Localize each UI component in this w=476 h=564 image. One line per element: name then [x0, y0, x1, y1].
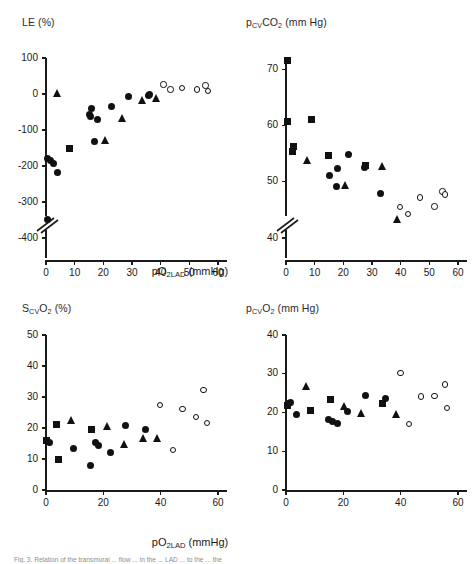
panel-pcvco2-y-tick	[282, 181, 286, 182]
panel-pcvco2-x-axis-line	[285, 260, 467, 262]
panel-scvo2-point-filled-circle	[95, 442, 102, 449]
panel-pcvo2-point-open-circle	[442, 381, 448, 387]
panel-pcvo2-y-tick-label: 30	[238, 367, 278, 378]
panel-scvo2-point-filled-triangle	[139, 434, 147, 442]
panel-le-x-tick	[74, 261, 75, 265]
panel-pcvco2-x-tick-label: 0	[271, 267, 301, 278]
panel-pcvco2-y-tick-label: 40	[238, 232, 278, 243]
panel-pcvo2-point-open-circle	[406, 421, 412, 427]
panel-pcvco2-y-tick	[282, 69, 286, 70]
panel-le-point-filled-circle	[108, 103, 115, 110]
panel-pcvco2-point-filled-triangle	[341, 181, 349, 189]
panel-pcvco2-point-open-circle	[442, 191, 448, 197]
panel-pcvo2: pCVO2 (mm Hg) 0102030400204060	[238, 290, 476, 564]
panel-le-x-tick-label: 10	[60, 267, 90, 278]
panel-scvo2-y-tick	[42, 427, 46, 428]
panel-pcvco2-x-tick-label: 50	[414, 267, 444, 278]
panel-pcvco2-point-filled-circle	[345, 151, 352, 158]
panel-pcvo2-x-tick-label: 60	[443, 497, 473, 508]
panel-scvo2-x-tick	[45, 491, 46, 495]
panel-le-point-filled-circle	[54, 169, 61, 176]
panel-scvo2-x-tick	[103, 491, 104, 495]
panel-pcvco2-x-tick	[400, 261, 401, 265]
panel-scvo2-y-tick	[42, 334, 46, 335]
panel-pcvco2-point-filled-circle	[334, 165, 341, 172]
panel-pcvo2-point-open-circle	[397, 370, 403, 376]
panel-pcvco2: pCVCO2 (mm Hg) 405060700102030405060	[238, 0, 476, 290]
panel-le-y-tick-label: -300	[0, 196, 38, 207]
panel-pcvco2-x-tick-label: 40	[386, 267, 416, 278]
panel-pcvo2-point-filled-triangle	[392, 410, 400, 418]
panel-le-x-axis-line	[45, 260, 227, 262]
panel-pcvco2-point-filled-circle	[333, 183, 340, 190]
panel-pcvo2-plot-area: 0102030400204060	[238, 290, 476, 564]
panel-pcvo2-x-tick	[457, 491, 458, 495]
panel-pcvo2-x-tick	[285, 491, 286, 495]
panel-scvo2: SCVO2 (%) 010203040500204060	[0, 290, 238, 564]
panel-le-point-filled-triangle	[53, 89, 61, 97]
panel-le-y-tick	[42, 129, 46, 130]
panel-scvo2-y-axis-line	[45, 335, 47, 490]
panel-pcvco2-point-open-circle	[405, 211, 411, 217]
panel-pcvo2-y-tick-label: 10	[238, 445, 278, 456]
panel-pcvco2-point-filled-triangle	[303, 156, 311, 164]
panel-pcvco2-x-tick	[314, 261, 315, 265]
panel-le-point-filled-square	[66, 145, 73, 152]
panel-le-x-tick	[45, 261, 46, 265]
panel-scvo2-y-tick-label: 10	[0, 453, 38, 464]
panel-pcvco2-y-axis-line	[285, 58, 287, 216]
panel-pcvco2-x-tick-label: 10	[300, 267, 330, 278]
panel-le-x-tick-label: 0	[31, 267, 61, 278]
panel-le-y-tick	[42, 165, 46, 166]
panel-scvo2-y-tick	[42, 365, 46, 366]
panel-pcvco2-x-tick-label: 20	[328, 267, 358, 278]
panel-pcvo2-point-filled-circle	[362, 392, 369, 399]
panel-pcvo2-point-filled-triangle	[302, 382, 310, 390]
panel-scvo2-point-filled-triangle	[153, 434, 161, 442]
panel-scvo2-y-tick-label: 30	[0, 391, 38, 402]
panel-pcvco2-point-filled-circle	[361, 164, 368, 171]
panel-le-y-tick	[42, 93, 46, 94]
panel-pcvco2-x-tick	[457, 261, 458, 265]
panel-pcvo2-point-filled-triangle	[357, 409, 365, 417]
panel-scvo2-point-filled-square	[55, 456, 62, 463]
panel-le-plot-area: -400-300-200-10001000102030405060	[0, 0, 238, 290]
panel-pcvo2-y-tick	[282, 373, 286, 374]
panel-le-y-tick	[42, 237, 46, 238]
panel-pcvo2-y-tick	[282, 451, 286, 452]
panel-scvo2-x-tick-label: 60	[203, 497, 233, 508]
panel-le-point-open-circle	[205, 88, 211, 94]
x-axis-caption-top: pO2LAD (mmHg)	[120, 265, 260, 277]
panel-pcvo2-point-filled-square	[327, 396, 334, 403]
panel-pcvco2-point-filled-triangle	[393, 215, 401, 223]
panel-scvo2-point-filled-triangle	[67, 416, 75, 424]
panel-pcvco2-y-tick-label: 70	[238, 63, 278, 74]
panel-pcvo2-point-filled-square	[307, 407, 314, 414]
panel-pcvo2-x-tick	[400, 491, 401, 495]
panel-le-y-tick	[42, 201, 46, 202]
panel-pcvco2-plot-area: 405060700102030405060	[238, 0, 476, 290]
panel-pcvco2-point-open-circle	[431, 203, 437, 209]
panel-pcvo2-point-filled-circle	[287, 399, 294, 406]
panel-scvo2-y-tick	[42, 396, 46, 397]
panel-le-point-open-circle	[167, 86, 173, 92]
x-axis-caption-bottom: pO2LAD (mmHg)	[120, 536, 260, 548]
panel-pcvo2-point-filled-triangle	[340, 402, 348, 410]
panel-le-point-filled-triangle	[118, 114, 126, 122]
figure-caption: Fig. 3. Relation of the transmural ... f…	[14, 556, 466, 563]
panel-le-point-filled-circle	[44, 216, 51, 223]
panel-pcvo2-point-filled-circle	[293, 411, 300, 418]
panel-scvo2-point-filled-circle	[122, 422, 129, 429]
panel-le-point-open-circle	[179, 85, 185, 91]
panel-pcvco2-y-tick	[282, 237, 286, 238]
panel-le-x-tick	[103, 261, 104, 265]
panel-scvo2-y-tick-label: 40	[0, 360, 38, 371]
panel-scvo2-point-filled-circle	[46, 439, 53, 446]
panel-le-point-filled-circle	[94, 116, 101, 123]
panel-pcvco2-point-open-circle	[417, 194, 423, 200]
panel-scvo2-y-tick-label: 20	[0, 422, 38, 433]
panel-pcvco2-y-tick-label: 60	[238, 119, 278, 130]
panel-pcvco2-point-filled-square	[325, 152, 332, 159]
panel-pcvo2-y-tick	[282, 412, 286, 413]
panel-scvo2-y-tick	[42, 458, 46, 459]
